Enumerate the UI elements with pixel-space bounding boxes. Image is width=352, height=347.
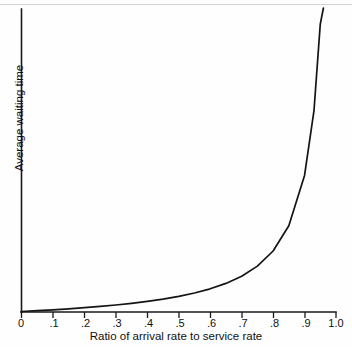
x-tick-label-3: .3: [112, 318, 121, 329]
chart-figure: 0 .1 .2 .3 .4 .5 .6 .7 .8 .9 1.0 Ratio o…: [0, 0, 352, 347]
x-tick-label-6: .6: [207, 318, 216, 329]
x-tick-label-0: 0: [18, 318, 24, 329]
x-tick-label-2: .2: [81, 318, 90, 329]
x-axis-title: Ratio of arrival rate to service rate: [0, 330, 352, 342]
x-tick-label-8: .8: [270, 318, 279, 329]
plot-area: [0, 0, 352, 347]
x-tick-label-10: 1.0: [328, 318, 343, 329]
x-tick-label-9: .9: [301, 318, 310, 329]
x-tick-label-4: .4: [144, 318, 153, 329]
x-tick-label-5: .5: [175, 318, 184, 329]
waiting-time-curve: [22, 8, 324, 312]
x-tick-label-1: .1: [49, 318, 58, 329]
x-tick-label-7: .7: [238, 318, 247, 329]
y-axis-title: Average waiting time: [13, 33, 25, 203]
